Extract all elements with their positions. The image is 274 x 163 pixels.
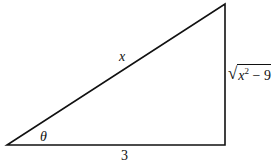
- angle-theta-label: θ: [40, 130, 47, 144]
- radicand: x2 − 9: [237, 64, 271, 83]
- opposite-side-label: √ x2 − 9: [228, 64, 271, 83]
- adjacent-side-label: 3: [121, 149, 128, 163]
- right-triangle: [7, 4, 225, 145]
- radical-sign: √: [228, 65, 237, 82]
- hypotenuse-label: x: [119, 50, 125, 64]
